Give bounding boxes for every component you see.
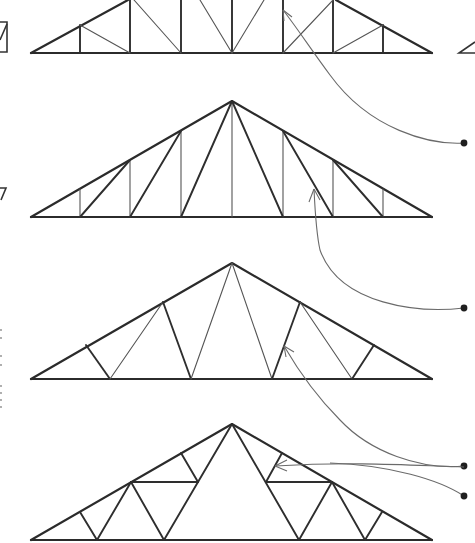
right-edge-fragment [459, 42, 475, 53]
truss-1 [31, 0, 432, 53]
truss-4-webs [80, 424, 382, 540]
callout-3-dot [461, 463, 468, 470]
truss-3-top-chord [31, 263, 432, 379]
truss-3 [31, 263, 432, 379]
truss-4-top-chord [31, 424, 432, 540]
callout-5-dot [461, 493, 468, 500]
callout-1-dot [461, 140, 468, 147]
truss-2-verticals [80, 101, 383, 217]
callout-3[interactable] [284, 346, 467, 469]
callout-2-dot [461, 305, 468, 312]
truss-1-verticals [80, 0, 383, 53]
callout-1[interactable] [283, 10, 467, 146]
callouts [275, 10, 467, 499]
left-edge-fragments [0, 22, 7, 408]
roof-truss-diagram [0, 0, 475, 543]
truss-4 [31, 424, 432, 540]
truss-2 [31, 101, 432, 217]
